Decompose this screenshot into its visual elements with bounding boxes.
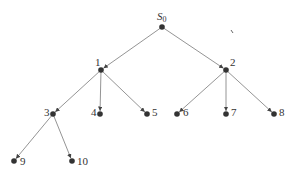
node-label-10: 10 <box>77 155 89 167</box>
stray-mark <box>231 30 233 33</box>
node-10 <box>69 158 75 164</box>
node-label-5: 5 <box>152 106 158 118</box>
node-9 <box>11 158 17 164</box>
edge-3-9 <box>16 114 53 159</box>
node-label-S0: S0 <box>157 10 167 24</box>
node-label-8: 8 <box>279 106 285 118</box>
tree-diagram-svg: S012345678910 <box>0 0 292 174</box>
edges <box>16 27 272 159</box>
node-5 <box>144 111 150 117</box>
node-8 <box>271 111 277 117</box>
node-3 <box>50 111 56 117</box>
edge-3-10 <box>53 114 71 158</box>
edge-S0-1 <box>103 27 162 68</box>
edge-1-4 <box>100 70 101 111</box>
nodes <box>11 24 277 164</box>
node-label-4: 4 <box>91 106 97 118</box>
edge-S0-2 <box>162 27 224 68</box>
node-label-3: 3 <box>44 106 50 118</box>
node-2 <box>223 67 229 73</box>
node-label-9: 9 <box>20 155 26 167</box>
node-S0 <box>159 24 165 30</box>
node-1 <box>98 67 104 73</box>
edge-1-5 <box>101 70 145 112</box>
node-4 <box>97 111 103 117</box>
node-7 <box>223 111 229 117</box>
node-label-6: 6 <box>183 106 189 118</box>
node-label-1: 1 <box>95 56 101 68</box>
node-label-7: 7 <box>231 106 237 118</box>
node-6 <box>174 111 180 117</box>
tree-diagram: S012345678910 <box>0 0 292 174</box>
node-label-2: 2 <box>230 56 236 68</box>
